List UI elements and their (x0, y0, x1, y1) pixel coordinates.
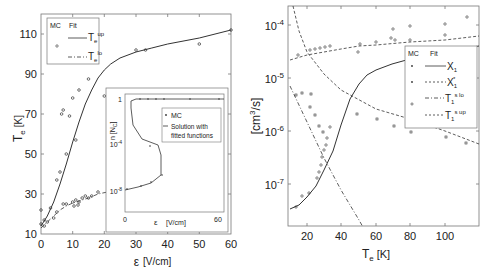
right-x-axis-label: Te[K] (362, 247, 390, 263)
svg-text:MC: MC (50, 22, 61, 29)
svg-text:10-6: 10-6 (265, 124, 285, 138)
svg-text:ε: ε (154, 218, 158, 227)
te-lo-mc-markers (40, 191, 100, 228)
left-x-tick-labels: 0 10 20 30 40 50 60 (38, 238, 237, 250)
svg-text:10-5: 10-5 (265, 71, 285, 85)
right-y-axis-label: [cm3/s] (248, 98, 263, 134)
inset-chart: 1 10-4 10-8 0 60 ε [V/cm] n [NC] MC Solu… (106, 88, 228, 232)
svg-text:Fit: Fit (430, 50, 438, 57)
right-x-tick-labels: 20 40 60 80 100 (301, 230, 454, 242)
y-tick: 70 (25, 108, 37, 120)
y-tick: 50 (25, 148, 37, 160)
svg-text:MC: MC (171, 112, 182, 119)
te-lo-fit-curve (41, 192, 108, 228)
svg-text:[cm3/s]: [cm3/s] (248, 98, 263, 134)
y-tick: 30 (25, 188, 37, 200)
x-tick: 10 (67, 238, 79, 250)
x-axis-symbol: ε (134, 255, 140, 269)
svg-text:60: 60 (214, 216, 222, 223)
x-tick: 20 (98, 238, 110, 250)
x-tick: 50 (193, 238, 205, 250)
x-tick: 30 (130, 238, 142, 250)
svg-text:60: 60 (370, 230, 382, 242)
svg-text:Solution with: Solution with (171, 123, 208, 130)
svg-text:0: 0 (123, 216, 127, 223)
svg-text:fitted functions: fitted functions (171, 132, 214, 139)
x-tick: 60 (225, 238, 237, 250)
svg-text:20: 20 (301, 230, 313, 242)
right-legend: MC Fit X1 X1* T1s lo T1s up (405, 46, 477, 128)
x-tick: 0 (38, 238, 44, 250)
x-axis-unit: [V/cm] (143, 256, 172, 267)
svg-text:40: 40 (335, 230, 347, 242)
y-tick: 90 (25, 68, 37, 80)
y-tick: 10 (25, 228, 37, 240)
y-tick: 110 (19, 28, 37, 40)
svg-text:10-4: 10-4 (265, 18, 285, 32)
svg-text:80: 80 (404, 230, 416, 242)
svg-text:100: 100 (436, 230, 454, 242)
right-y-tick-labels: 10-4 10-5 10-6 10-7 (265, 18, 285, 191)
right-chart: 10-4 10-5 10-6 10-7 20 40 60 80 100 Te[K… (248, 6, 479, 263)
svg-text:Fit: Fit (69, 22, 77, 29)
svg-text:[V/cm]: [V/cm] (166, 219, 186, 227)
x-tick: 40 (162, 238, 174, 250)
left-legend: MC Fit Teup Telo (47, 18, 105, 64)
svg-text:10-7: 10-7 (265, 177, 285, 191)
figure: 110 90 70 50 30 10 0 10 20 30 40 50 60 ε… (0, 0, 487, 270)
t1-slo-fit-curve (290, 86, 368, 236)
svg-text:1: 1 (118, 96, 122, 103)
svg-text:MC: MC (408, 50, 419, 57)
left-chart: 110 90 70 50 30 10 0 10 20 30 40 50 60 ε… (11, 14, 237, 269)
